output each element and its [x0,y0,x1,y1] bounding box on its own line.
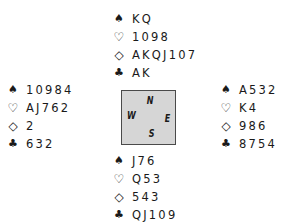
diamond-icon: ◇ [219,117,233,135]
spade-icon: ♠ [219,81,233,99]
west-diamonds: 2 [26,117,36,135]
diamond-icon: ◇ [112,188,126,206]
east-diamonds: 986 [239,117,268,135]
spade-icon: ♠ [6,81,20,99]
south-diamonds: 543 [132,188,161,206]
club-icon: ♣ [112,64,126,82]
west-hearts: AJ762 [26,99,70,117]
south-spades: J76 [132,152,157,170]
north-hearts: 1098 [132,28,170,46]
north-spades: KQ [132,10,153,28]
west-hearts-row: ♡ AJ762 [6,99,74,117]
diamond-icon: ◇ [112,46,126,64]
south-clubs: QJ109 [132,206,177,224]
south-hand: ♠ J76 ♡ Q53 ◇ 543 ♣ QJ109 [112,152,177,224]
compass-east-label: E [165,113,170,124]
heart-icon: ♡ [112,170,126,188]
west-spades: 10984 [26,81,74,99]
north-hand: ♠ KQ ♡ 1098 ◇ AKQJ107 ♣ AK [112,10,197,82]
south-hearts: Q53 [132,170,162,188]
south-diamonds-row: ◇ 543 [112,188,177,206]
east-clubs: 8754 [239,135,277,153]
south-spades-row: ♠ J76 [112,152,177,170]
spade-icon: ♠ [112,10,126,28]
east-diamonds-row: ◇ 986 [219,117,278,135]
north-diamonds-row: ◇ AKQJ107 [112,46,197,64]
heart-icon: ♡ [112,28,126,46]
east-hearts: K4 [239,99,258,117]
west-clubs: 632 [26,135,55,153]
south-hearts-row: ♡ Q53 [112,170,177,188]
west-spades-row: ♠ 10984 [6,81,74,99]
club-icon: ♣ [112,206,126,224]
club-icon: ♣ [219,135,233,153]
north-hearts-row: ♡ 1098 [112,28,197,46]
heart-icon: ♡ [219,99,233,117]
compass-south-label: S [149,128,155,139]
south-clubs-row: ♣ QJ109 [112,206,177,224]
spade-icon: ♠ [112,152,126,170]
north-diamonds: AKQJ107 [132,46,197,64]
east-spades: A532 [239,81,278,99]
west-hand: ♠ 10984 ♡ AJ762 ◇ 2 ♣ 632 [6,81,74,153]
heart-icon: ♡ [6,99,20,117]
west-clubs-row: ♣ 632 [6,135,74,153]
club-icon: ♣ [6,135,20,153]
west-diamonds-row: ◇ 2 [6,117,74,135]
east-spades-row: ♠ A532 [219,81,278,99]
east-clubs-row: ♣ 8754 [219,135,278,153]
north-clubs-row: ♣ AK [112,64,197,82]
north-spades-row: ♠ KQ [112,10,197,28]
north-clubs: AK [132,64,152,82]
compass-north-label: N [147,95,154,106]
east-hearts-row: ♡ K4 [219,99,278,117]
east-hand: ♠ A532 ♡ K4 ◇ 986 ♣ 8754 [219,81,278,153]
diamond-icon: ◇ [6,117,20,135]
compass-west-label: W [127,110,136,121]
compass-box: N W E S [121,90,176,145]
